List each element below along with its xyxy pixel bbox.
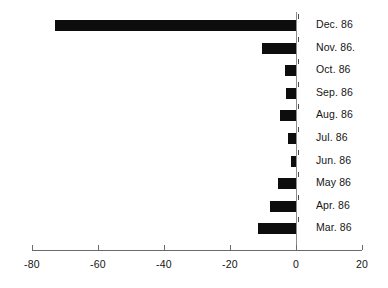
x-tick-label: -80	[7, 258, 57, 270]
bar-row: Nov. 86.	[0, 37, 388, 59]
bar-row: May 86	[0, 172, 388, 194]
x-tick-mark	[230, 245, 231, 250]
x-tick-mark	[164, 245, 165, 250]
x-tick-label: 0	[271, 258, 321, 270]
bar-row: Dec. 86	[0, 14, 388, 36]
bar-row: Mar. 86	[0, 217, 388, 239]
row-tick-mark	[298, 104, 299, 109]
category-label: Nov. 86.	[316, 40, 355, 54]
bar	[280, 110, 297, 121]
bar-row: Jun. 86	[0, 150, 388, 172]
x-tick-mark	[296, 245, 297, 250]
row-tick-mark	[298, 217, 299, 222]
category-label: Jul. 86	[316, 130, 348, 144]
category-label: Dec. 86	[316, 17, 353, 31]
x-tick-mark	[362, 245, 363, 250]
bar	[286, 88, 296, 99]
bar-row: Jul. 86	[0, 127, 388, 149]
bar	[55, 20, 296, 31]
row-tick-mark	[298, 150, 299, 155]
x-tick-mark	[98, 245, 99, 250]
row-tick-mark	[298, 37, 299, 42]
row-tick-mark	[298, 172, 299, 177]
bar-chart: Dec. 86Nov. 86.Oct. 86Sep. 86Aug. 86Jul.…	[0, 0, 388, 288]
bar	[278, 178, 296, 189]
plot-area: Dec. 86Nov. 86.Oct. 86Sep. 86Aug. 86Jul.…	[0, 0, 388, 288]
x-tick-label: -40	[139, 258, 189, 270]
bar-row: Sep. 86	[0, 82, 388, 104]
bar-row: Apr. 86	[0, 195, 388, 217]
row-tick-mark	[298, 59, 299, 64]
category-label: Sep. 86	[316, 85, 353, 99]
x-tick-label: -60	[73, 258, 123, 270]
bar-row: Aug. 86	[0, 104, 388, 126]
category-label: Oct. 86	[316, 62, 351, 76]
x-axis-line	[32, 250, 362, 251]
bar	[258, 223, 296, 234]
category-label: Jun. 86	[316, 153, 351, 167]
bar	[262, 43, 296, 54]
row-tick-mark	[298, 195, 299, 200]
x-tick-label: 20	[337, 258, 387, 270]
bar	[291, 156, 296, 167]
category-label: Mar. 86	[316, 220, 352, 234]
x-tick-mark	[32, 245, 33, 250]
category-label: May 86	[316, 175, 351, 189]
x-tick-label: -20	[205, 258, 255, 270]
bar-row: Oct. 86	[0, 59, 388, 81]
category-label: Aug. 86	[316, 107, 353, 121]
row-tick-mark	[298, 127, 299, 132]
category-label: Apr. 86	[316, 198, 350, 212]
bar	[285, 65, 296, 76]
row-tick-mark	[298, 82, 299, 87]
bar	[270, 201, 296, 212]
bar	[288, 133, 296, 144]
row-tick-mark	[298, 14, 299, 19]
